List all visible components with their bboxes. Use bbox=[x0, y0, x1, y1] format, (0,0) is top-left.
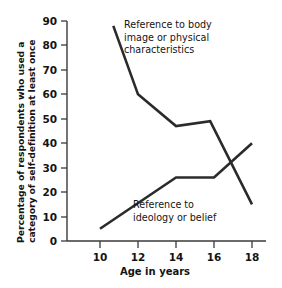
y-axis-tick-labels: 90 80 70 60 50 40 30 20 10 0 bbox=[42, 15, 57, 247]
annotation-body-image-line-3: characteristics bbox=[124, 44, 194, 55]
y-tick-label-20: 20 bbox=[42, 186, 57, 198]
y-tick-label-80: 80 bbox=[42, 39, 57, 51]
annotation-body-image-line-1: Reference to body bbox=[124, 19, 212, 30]
y-tick-label-50: 50 bbox=[42, 113, 57, 125]
x-axis-label-wrap: Age in years bbox=[0, 266, 282, 277]
y-tick-label-0: 0 bbox=[50, 235, 57, 247]
x-axis-label: Age in years bbox=[120, 266, 190, 277]
x-axis-ticks bbox=[100, 241, 252, 248]
line-chart: Percentage of respondents who used a cat… bbox=[0, 0, 282, 288]
x-tick-label-16: 16 bbox=[207, 251, 222, 263]
y-tick-label-10: 10 bbox=[42, 211, 57, 223]
x-tick-label-10: 10 bbox=[93, 251, 108, 263]
x-tick-label-12: 12 bbox=[131, 251, 146, 263]
y-tick-label-70: 70 bbox=[42, 64, 57, 76]
annotation-body-image-line-2: image or physical bbox=[124, 32, 209, 43]
annotation-ideology: Reference to ideology or belief bbox=[133, 199, 217, 223]
y-tick-label-60: 60 bbox=[42, 88, 57, 100]
y-axis-ticks bbox=[61, 21, 67, 241]
x-tick-label-14: 14 bbox=[169, 251, 184, 263]
x-tick-label-18: 18 bbox=[245, 251, 260, 263]
y-tick-label-40: 40 bbox=[42, 137, 57, 149]
y-tick-label-30: 30 bbox=[42, 162, 57, 174]
annotation-ideology-line-1: Reference to bbox=[133, 199, 194, 210]
annotation-body-image: Reference to body image or physical char… bbox=[124, 19, 212, 55]
annotation-ideology-line-2: ideology or belief bbox=[133, 212, 217, 223]
y-tick-label-90: 90 bbox=[42, 15, 57, 27]
chart-canvas: 90 80 70 60 50 40 30 20 10 0 10 12 14 16… bbox=[0, 0, 282, 288]
x-axis-tick-labels: 10 12 14 16 18 bbox=[93, 251, 260, 263]
